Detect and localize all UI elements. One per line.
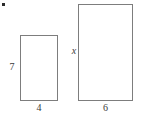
large-rectangle-width-label: 6 [78,103,133,113]
geometry-figure: 7 4 x 6 [0,0,143,120]
problem-bullet-icon [2,3,5,6]
small-rectangle-width-label: 4 [20,103,58,113]
large-rectangle-height-label: x [69,46,79,56]
small-rectangle-height-label: 7 [7,62,17,72]
large-rectangle [78,4,133,101]
small-rectangle [20,35,58,101]
